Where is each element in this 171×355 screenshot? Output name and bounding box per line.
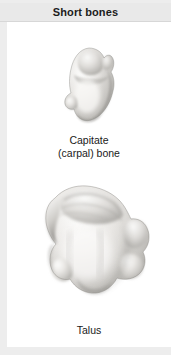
figure-title-band: Short bones [0, 3, 171, 22]
figure-title: Short bones [53, 7, 118, 18]
specimen-talus: Talus [7, 174, 171, 337]
capitate-bone-stage [7, 44, 171, 128]
capitate-caption-line-2: (carpal) bone [7, 147, 171, 160]
figure-content-area: Capitate (carpal) bone [7, 22, 171, 347]
panel-edge-bottom [0, 347, 171, 355]
panel-edge-left [0, 0, 7, 355]
talus-bone-stage [7, 174, 171, 314]
talus-caption-line-1: Talus [7, 324, 171, 337]
capitate-body-highlight [74, 79, 100, 113]
short-bones-figure-panel: Short bones [0, 0, 171, 355]
capitate-caption: Capitate (carpal) bone [7, 134, 171, 159]
specimen-capitate: Capitate (carpal) bone [7, 44, 171, 159]
talus-caption: Talus [7, 324, 171, 337]
capitate-bone-illustration [7, 44, 171, 128]
talus-bone-illustration [7, 174, 171, 314]
capitate-caption-line-1: Capitate [7, 134, 171, 147]
